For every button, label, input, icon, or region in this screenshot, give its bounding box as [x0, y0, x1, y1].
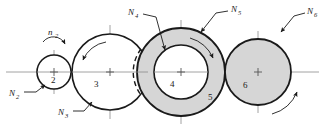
label-N2-sub: 2 [16, 93, 20, 100]
label-N4-base: N [127, 7, 135, 17]
label-N4-sub: 4 [135, 12, 139, 19]
rotation-arrow-n2 [43, 37, 65, 44]
label-N5: N 5 [230, 4, 242, 16]
gear-3-number: 3 [94, 79, 99, 89]
label-N5-base: N [230, 4, 238, 14]
leader-N5 [201, 11, 228, 32]
label-N3-sub: 3 [64, 112, 69, 119]
label-N4: N 4 [127, 7, 139, 19]
leader-N2 [24, 85, 45, 92]
gear-4-number: 4 [170, 79, 175, 89]
label-N5-sub: 5 [238, 9, 242, 16]
gear-2-number: 2 [51, 75, 56, 85]
gear-6-number: 6 [243, 80, 248, 90]
gear-5-number: 5 [208, 92, 213, 102]
label-N6: N 6 [306, 6, 318, 18]
label-N6-sub: 6 [314, 11, 318, 18]
label-n2-base: n [48, 27, 53, 37]
label-N2: N 2 [8, 88, 20, 100]
label-N2-base: N [8, 88, 16, 98]
leader-N6 [281, 13, 305, 32]
label-N6-base: N [306, 6, 314, 16]
gear-train-figure: n 2 N 2 N 3 N 4 N 5 N 6 2 3 4 [0, 0, 325, 132]
label-N3-base: N [57, 107, 65, 117]
label-N3: N 3 [57, 107, 69, 119]
